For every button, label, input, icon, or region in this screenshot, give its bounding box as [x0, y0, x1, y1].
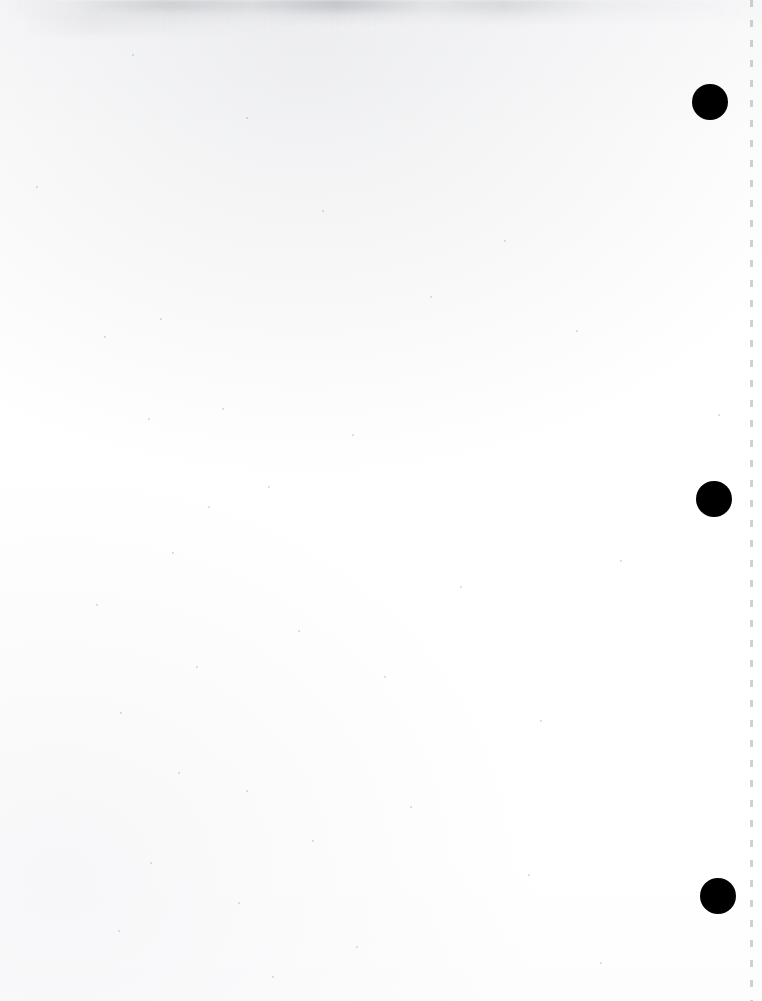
scan-speckle [118, 930, 120, 932]
scan-speckle [268, 486, 270, 488]
scan-speckle [322, 210, 324, 212]
scan-speckle [148, 418, 150, 420]
scan-speckle [410, 806, 412, 808]
scan-speckle [178, 772, 180, 774]
scanned-page [0, 0, 762, 1001]
paper-background [0, 0, 762, 1001]
scan-speckle [384, 676, 386, 678]
scan-speckle [352, 434, 354, 436]
scan-speckle [356, 946, 358, 948]
scan-speckle [540, 720, 542, 722]
scan-speckle [272, 976, 274, 978]
scan-speckle [246, 790, 248, 792]
perforation-line [750, 0, 753, 1001]
scan-speckle [172, 552, 174, 554]
scan-speckle [150, 862, 152, 864]
registration-mark-middle [696, 481, 732, 517]
scan-speckle [104, 336, 106, 338]
scan-speckle [120, 712, 122, 714]
scan-speckle [504, 240, 506, 242]
scan-speckle [160, 318, 162, 320]
scan-speckle [718, 414, 720, 416]
top-edge-smudge-soft [20, 12, 520, 34]
scan-speckle [96, 604, 98, 606]
scan-speckle [246, 117, 248, 119]
scan-speckle [620, 560, 622, 562]
scan-speckle [222, 408, 224, 410]
scan-speckle [312, 840, 314, 842]
scan-speckle [298, 630, 300, 632]
scan-speckle [196, 666, 198, 668]
scan-speckle [576, 330, 578, 332]
scan-speckle [132, 54, 134, 56]
top-edge-smudge [0, 0, 762, 26]
scan-speckle [600, 962, 602, 964]
registration-mark-bottom [700, 878, 736, 914]
scan-speckle [208, 506, 210, 508]
scan-speckle [430, 296, 432, 298]
scan-speckle [528, 874, 530, 876]
registration-mark-top [692, 84, 728, 120]
scan-speckle [460, 586, 462, 588]
scan-speckle [238, 902, 240, 904]
scan-speckle [36, 186, 38, 188]
